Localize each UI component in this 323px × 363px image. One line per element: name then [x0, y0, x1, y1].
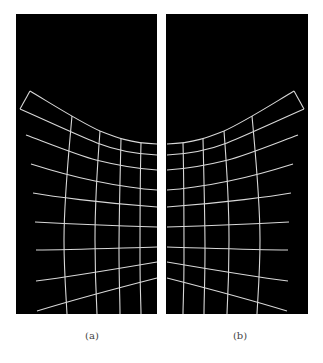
panel-a-background — [16, 14, 157, 314]
panel-b — [166, 14, 308, 314]
panel-b-background — [166, 14, 308, 314]
caption-a: (a) — [77, 330, 107, 341]
caption-b: (b) — [225, 330, 255, 341]
figure: (a) (b) — [0, 0, 323, 363]
figure-panels — [0, 0, 323, 363]
panel-a — [16, 14, 157, 314]
